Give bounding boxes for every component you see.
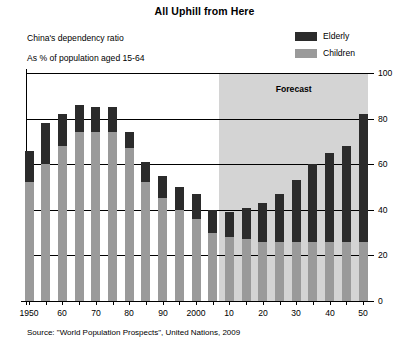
- legend-label-elderly: Elderly: [323, 32, 349, 41]
- bar-1980: [125, 132, 134, 301]
- bar-segment-children-2035: [308, 242, 317, 301]
- bar-segment-elderly-2010: [225, 212, 234, 237]
- bar-segment-children-1955: [41, 164, 50, 301]
- bar-segment-children-1950: [25, 182, 34, 301]
- x-tick-label-2020: 20: [258, 309, 268, 318]
- x-tick-2045: [346, 301, 347, 305]
- forecast-annotation-label: Forecast: [219, 84, 368, 94]
- x-tick-2035: [313, 301, 314, 305]
- x-tick-1985: [146, 301, 147, 305]
- bar-segment-elderly-1965: [75, 105, 84, 132]
- bar-segment-children-2005: [208, 233, 217, 301]
- bar-1975: [108, 107, 117, 301]
- bar-segment-elderly-2045: [342, 146, 351, 242]
- x-tick-1965: [79, 301, 80, 305]
- y-tick-label-100: 100: [378, 69, 392, 78]
- bar-segment-children-1960: [58, 146, 67, 301]
- bar-segment-children-2025: [275, 242, 284, 301]
- x-tick-label-1950: 1950: [19, 309, 38, 318]
- y-tick-40: [368, 210, 374, 211]
- bar-segment-elderly-2050: [359, 114, 368, 242]
- bar-1950: [25, 151, 34, 301]
- bar-segment-children-1965: [75, 132, 84, 301]
- bar-segment-elderly-2025: [275, 194, 284, 242]
- x-tick-1975: [113, 301, 114, 305]
- x-tick-1950: [29, 301, 30, 305]
- y-tick-label-0: 0: [378, 297, 383, 306]
- bar-segment-elderly-1980: [125, 132, 134, 148]
- chart-title: All Uphill from Here: [0, 5, 409, 17]
- bar-2005: [208, 210, 217, 301]
- y-tick-20: [368, 255, 374, 256]
- bar-2015: [242, 208, 251, 301]
- bar-segment-elderly-2040: [325, 153, 334, 242]
- bar-segment-elderly-1960: [58, 114, 67, 146]
- plot-area: Forecast 020406080100 195060708090200010…: [27, 73, 368, 301]
- x-tick-label-2010: 10: [224, 309, 234, 318]
- x-tick-2030: [296, 301, 297, 305]
- bar-segment-children-1990: [158, 198, 167, 301]
- bar-2050: [359, 114, 368, 301]
- y-tick-label-20: 20: [378, 251, 388, 260]
- bar-1970: [91, 107, 100, 301]
- bar-1990: [158, 176, 167, 301]
- y-tick-60: [368, 164, 374, 165]
- x-tick-2000: [196, 301, 197, 305]
- bar-segment-children-2040: [325, 242, 334, 301]
- x-tick-2005: [213, 301, 214, 305]
- x-tick-label-2000: 2000: [186, 309, 205, 318]
- legend-swatch-children: [295, 49, 317, 58]
- chart-subtitle-primary: China's dependency ratio: [27, 33, 124, 43]
- bar-segment-elderly-1950: [25, 151, 34, 183]
- y-tick-label-60: 60: [378, 160, 388, 169]
- x-tick-2020: [263, 301, 264, 305]
- x-tick-1970: [96, 301, 97, 305]
- x-tick-2015: [246, 301, 247, 305]
- bar-2010: [225, 212, 234, 301]
- bar-segment-children-2010: [225, 237, 234, 301]
- bar-segment-children-2020: [258, 242, 267, 301]
- plot-top-border: [27, 73, 368, 74]
- x-tick-2025: [280, 301, 281, 305]
- bar-1985: [141, 162, 150, 301]
- bar-2035: [308, 164, 317, 301]
- x-tick-1960: [62, 301, 63, 305]
- bar-segment-elderly-2035: [308, 164, 317, 242]
- bar-1960: [58, 114, 67, 301]
- x-tick-2050: [363, 301, 364, 305]
- bar-2030: [292, 180, 301, 301]
- bar-2045: [342, 146, 351, 301]
- bar-segment-children-2050: [359, 242, 368, 301]
- y-tick-0: [368, 301, 374, 302]
- legend-label-children: Children: [323, 49, 355, 58]
- y-tick-80: [368, 119, 374, 120]
- x-tick-2010: [229, 301, 230, 305]
- bar-2000: [192, 194, 201, 301]
- bar-segment-children-1980: [125, 148, 134, 301]
- y-tick-label-80: 80: [378, 115, 388, 124]
- bar-segment-elderly-2030: [292, 180, 301, 242]
- bar-segment-children-2015: [242, 239, 251, 301]
- y-tick-label-40: 40: [378, 206, 388, 215]
- legend-swatch-elderly: [295, 32, 317, 41]
- bar-segment-elderly-2005: [208, 210, 217, 233]
- y-tick-100: [368, 73, 374, 74]
- source-note: Source: "World Population Prospects", Un…: [27, 328, 240, 337]
- bar-1955: [41, 123, 50, 301]
- bar-segment-children-1995: [175, 210, 184, 301]
- bar-segment-elderly-1970: [91, 107, 100, 132]
- chart-figure: All Uphill from Here China's dependency …: [0, 0, 409, 353]
- x-tick-1955: [46, 301, 47, 305]
- bar-segment-elderly-2000: [192, 194, 201, 219]
- bar-1965: [75, 105, 84, 301]
- legend-item-children: Children: [295, 45, 405, 62]
- x-tick-label-1990: 90: [158, 309, 168, 318]
- bar-segment-elderly-1995: [175, 187, 184, 210]
- x-tick-1990: [163, 301, 164, 305]
- bar-segment-elderly-2015: [242, 208, 251, 240]
- bar-segment-elderly-1975: [108, 107, 117, 132]
- bar-segment-elderly-1990: [158, 176, 167, 199]
- bar-segment-children-1985: [141, 182, 150, 301]
- x-tick-label-2030: 30: [291, 309, 301, 318]
- legend-item-elderly: Elderly: [295, 28, 405, 45]
